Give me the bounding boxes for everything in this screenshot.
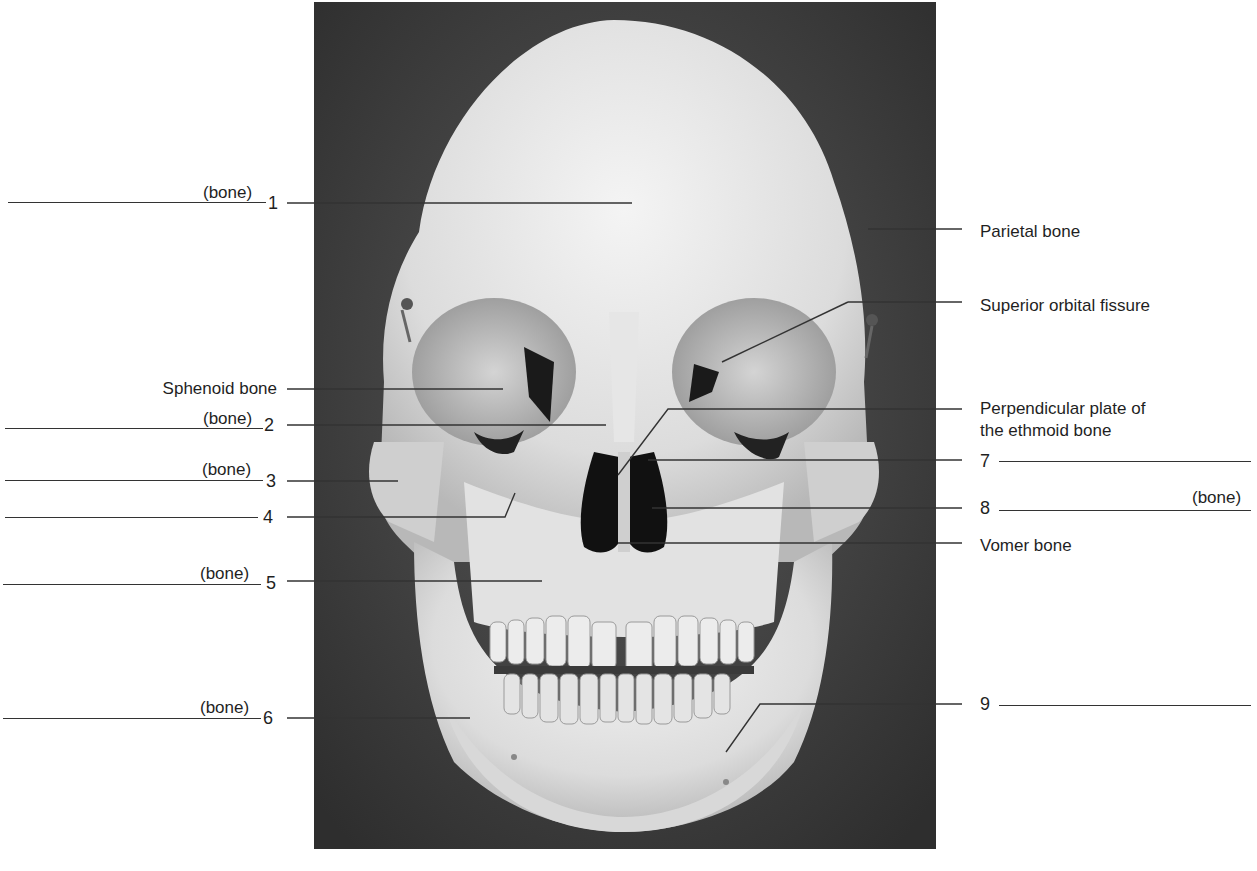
label-number-3: 3 bbox=[266, 471, 276, 491]
answer-blank-5[interactable] bbox=[3, 584, 261, 585]
answer-blank-9[interactable] bbox=[999, 705, 1251, 706]
label-perpendicular-plate-line1: Perpendicular plate of bbox=[980, 399, 1145, 419]
bone-suffix-8: (bone) bbox=[1192, 488, 1241, 508]
label-sphenoid-bone: Sphenoid bone bbox=[100, 379, 277, 399]
label-number-2: 2 bbox=[264, 415, 274, 435]
label-parietal-bone: Parietal bone bbox=[980, 222, 1080, 242]
answer-blank-4[interactable] bbox=[5, 517, 258, 518]
bone-suffix-5: (bone) bbox=[200, 564, 249, 584]
bone-suffix-1: (bone) bbox=[203, 183, 252, 203]
label-number-5: 5 bbox=[266, 573, 276, 593]
label-number-8: 8 bbox=[980, 498, 990, 518]
answer-blank-6[interactable] bbox=[3, 718, 261, 719]
label-perpendicular-plate-line2: the ethmoid bone bbox=[980, 421, 1111, 441]
answer-blank-8[interactable] bbox=[999, 510, 1251, 511]
label-number-1: 1 bbox=[268, 193, 278, 213]
bone-suffix-2: (bone) bbox=[203, 409, 252, 429]
label-number-7: 7 bbox=[980, 451, 990, 471]
bone-suffix-6: (bone) bbox=[200, 698, 249, 718]
bone-suffix-3: (bone) bbox=[202, 460, 251, 480]
label-vomer-bone: Vomer bone bbox=[980, 536, 1072, 556]
label-number-6: 6 bbox=[263, 708, 273, 728]
answer-blank-7[interactable] bbox=[999, 461, 1251, 462]
label-number-4: 4 bbox=[263, 507, 273, 527]
answer-blank-3[interactable] bbox=[5, 480, 263, 481]
label-number-9: 9 bbox=[980, 694, 990, 714]
skull-illustration bbox=[314, 2, 936, 849]
label-superior-orbital-fissure: Superior orbital fissure bbox=[980, 296, 1150, 316]
skull-photo bbox=[314, 2, 936, 849]
